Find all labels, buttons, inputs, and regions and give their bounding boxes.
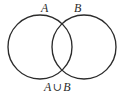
venn-diagram-figure: A B A∪B <box>0 0 125 97</box>
set-a-label: A <box>40 2 49 14</box>
set-b-label: B <box>73 2 82 14</box>
union-caption-left-operand: A <box>44 80 52 94</box>
union-caption: A∪B <box>43 81 72 93</box>
union-caption-right-operand: B <box>63 80 71 94</box>
set-b-circle <box>52 15 116 79</box>
union-operator-glyph: ∪ <box>52 81 64 93</box>
set-a-circle <box>8 15 72 79</box>
